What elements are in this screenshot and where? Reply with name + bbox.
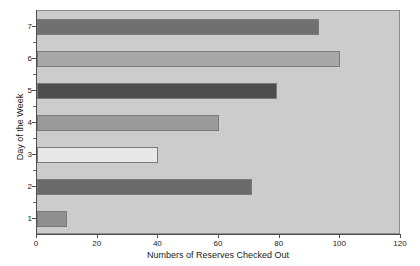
y-tick-label-6: 6 [20, 54, 32, 63]
x-tick-label-60: 60 [214, 239, 223, 248]
bar-day-3 [37, 147, 158, 163]
x-tick-20 [97, 234, 98, 238]
bar-day-7 [37, 19, 319, 35]
x-tick-label-120: 120 [393, 239, 406, 248]
x-tick-80 [279, 234, 280, 238]
x-tick-label-0: 0 [34, 239, 38, 248]
x-axis-title: Numbers of Reserves Checked Out [36, 250, 400, 260]
x-tick-label-100: 100 [333, 239, 346, 248]
y-tick-5 [32, 90, 36, 91]
y-tick-1 [32, 218, 36, 219]
bar-day-6 [37, 51, 340, 67]
y-minor-tick-2 [33, 138, 36, 139]
y-tick-2 [32, 186, 36, 187]
x-tick-label-80: 80 [274, 239, 283, 248]
y-tick-6 [32, 58, 36, 59]
bar-chart-figure: 020406080100120 1234567 Numbers of Reser… [0, 0, 420, 266]
y-tick-3 [32, 154, 36, 155]
x-tick-100 [339, 234, 340, 238]
x-tick-label-40: 40 [153, 239, 162, 248]
y-minor-tick-5 [33, 42, 36, 43]
x-tick-60 [218, 234, 219, 238]
y-minor-tick-4 [33, 74, 36, 75]
x-tick-120 [400, 234, 401, 238]
y-axis-title: Day of the Week [15, 67, 25, 187]
y-minor-tick-3 [33, 106, 36, 107]
x-tick-0 [36, 234, 37, 238]
y-tick-label-7: 7 [20, 22, 32, 31]
y-tick-label-1: 1 [20, 214, 32, 223]
bar-day-4 [37, 115, 219, 131]
x-tick-40 [157, 234, 158, 238]
plot-area [36, 10, 400, 234]
bar-day-1 [37, 211, 67, 227]
y-tick-7 [32, 26, 36, 27]
y-tick-4 [32, 122, 36, 123]
y-axis-line [36, 10, 37, 234]
y-minor-tick-0 [33, 202, 36, 203]
x-tick-label-20: 20 [92, 239, 101, 248]
y-minor-tick-1 [33, 170, 36, 171]
bar-day-2 [37, 179, 252, 195]
bar-day-5 [37, 83, 277, 99]
